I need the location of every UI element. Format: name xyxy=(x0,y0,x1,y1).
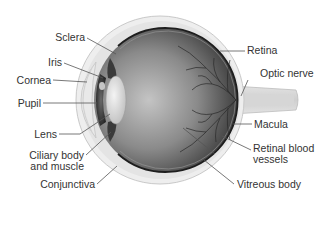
label-optic-nerve: Optic nerve xyxy=(260,68,314,79)
label-pupil: Pupil xyxy=(10,98,41,109)
label-retinal-blood-vessels: Retinal blood vessels xyxy=(253,143,314,165)
label-cornea: Cornea xyxy=(8,75,51,86)
label-ciliary-body: Ciliary body and muscle xyxy=(20,150,84,172)
lens-shape xyxy=(106,76,126,124)
label-conjunctiva: Conjunctiva xyxy=(30,179,95,190)
label-retina: Retina xyxy=(247,45,277,56)
label-ciliary-line2: and muscle xyxy=(20,161,84,172)
label-lens: Lens xyxy=(26,129,57,140)
label-sclera: Sclera xyxy=(41,32,85,43)
label-vitreous-body: Vitreous body xyxy=(237,179,301,190)
label-macula: Macula xyxy=(254,119,288,130)
label-iris: Iris xyxy=(30,57,62,68)
label-vessels-line2: vessels xyxy=(253,154,314,165)
